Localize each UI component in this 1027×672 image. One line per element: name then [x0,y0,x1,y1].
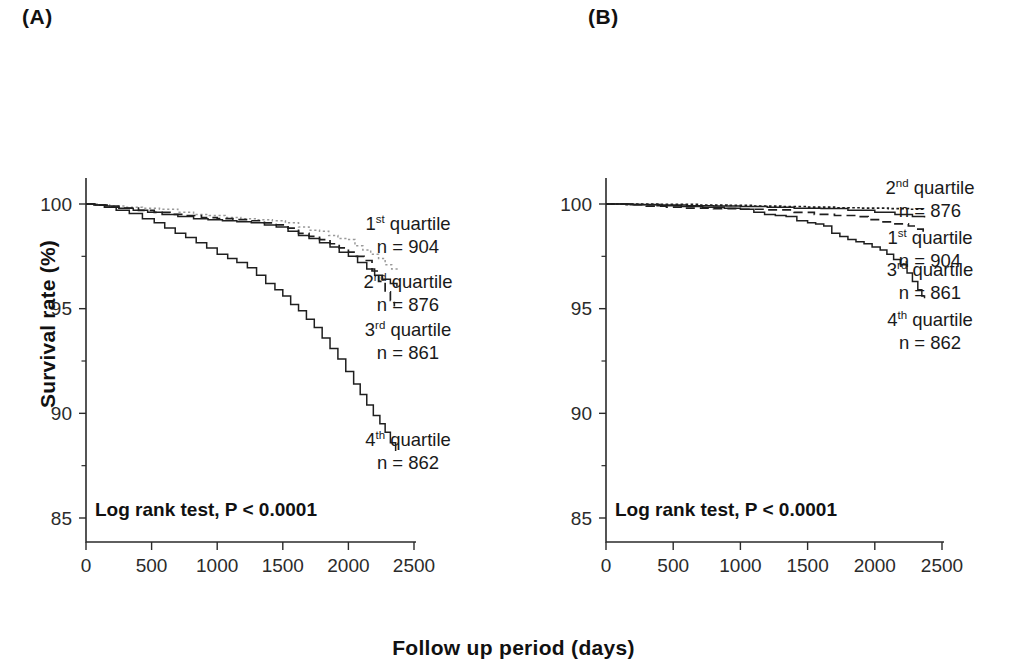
figure-container: (A) (B) 85909510005001000150020002500Log… [0,0,1027,672]
legend-quartile-label: 3rd quartile [365,318,451,342]
legend-n-label: n = 862 [365,452,451,475]
y-tick-label: 100 [560,194,592,215]
curve-3rd-quartile [86,204,397,287]
legend-n-label: n = 876 [364,294,453,317]
legend-item-b-4: 4th quartilen = 862 [887,308,973,354]
x-axis-title: Follow up period (days) [0,636,1027,660]
legend-n-label: n = 861 [365,342,451,365]
x-tick-label: 2500 [921,555,963,576]
legend-n-label: n = 904 [365,236,450,259]
x-tick-label: 0 [81,555,92,576]
survival-plot-svg: 85909510005001000150020002500Log rank te… [0,0,1027,672]
y-tick-label: 95 [571,298,592,319]
legend-quartile-label: 2nd quartile [364,270,453,294]
x-tick-label: 2500 [393,555,435,576]
y-tick-label: 90 [571,403,592,424]
curve-4th-quartile [86,204,396,451]
legend-item-a-1: 1st quartilen = 904 [365,212,450,258]
curve-4th-quartile [606,204,925,298]
legend-n-label: n = 861 [887,282,973,305]
legend-item-a-3: 3rd quartilen = 861 [365,318,451,364]
legend-quartile-label: 4th quartile [887,308,973,332]
legend-quartile-label: 3rd quartile [887,258,973,282]
legend-quartile-label: 1st quartile [887,226,972,250]
x-tick-label: 500 [657,555,689,576]
x-tick-label: 1000 [719,555,761,576]
log-rank-annotation-b: Log rank test, P < 0.0001 [615,499,837,520]
x-tick-label: 2000 [854,555,896,576]
log-rank-annotation-a: Log rank test, P < 0.0001 [95,499,317,520]
x-tick-label: 1500 [262,555,304,576]
legend-n-label: n = 862 [887,332,973,355]
legend-quartile-label: 4th quartile [365,428,451,452]
legend-quartile-label: 1st quartile [365,212,450,236]
x-tick-label: 500 [136,555,168,576]
legend-item-a-2: 2nd quartilen = 876 [364,270,453,316]
x-tick-label: 0 [601,555,612,576]
curve-1st-quartile [606,204,923,233]
x-tick-label: 1000 [196,555,238,576]
x-tick-label: 2000 [327,555,369,576]
x-tick-label: 1500 [786,555,828,576]
legend-quartile-label: 2nd quartile [886,176,975,200]
y-tick-label: 85 [571,508,592,529]
legend-item-b-3: 3rd quartilen = 861 [887,258,973,304]
y-tick-label: 85 [51,508,72,529]
y-axis-title: Survival rate (%) [36,194,60,454]
legend-item-a-4: 4th quartilen = 862 [365,428,451,474]
legend-n-label: n = 876 [886,200,975,223]
legend-item-b-1: 2nd quartilen = 876 [886,176,975,222]
